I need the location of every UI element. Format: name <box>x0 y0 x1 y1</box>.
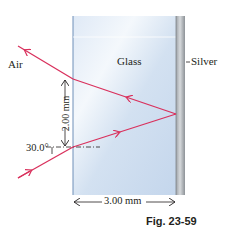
ray-arrow-icon <box>18 171 30 178</box>
air-label: Air <box>8 58 23 70</box>
silver-label: Silver <box>191 55 217 67</box>
vertical-dimension-label: 2.00 mm <box>60 90 71 138</box>
diagram-figure: Air Glass Silver 30.0° 2.00 mm 3.00 mm F… <box>0 0 228 235</box>
silver-backing <box>176 16 185 195</box>
glass-slab <box>73 16 176 195</box>
glass-label: Glass <box>117 55 141 67</box>
horizontal-dimension-label: 3.00 mm <box>104 195 141 206</box>
figure-caption: Fig. 23-59 <box>146 215 197 227</box>
incidence-angle-label: 30.0° <box>26 142 49 153</box>
